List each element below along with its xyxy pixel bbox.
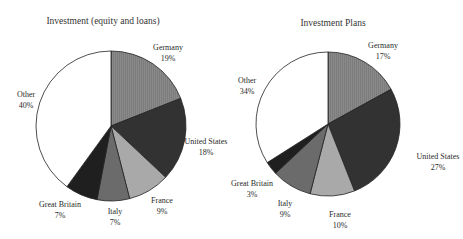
label-pct: 9% [151,206,173,217]
pie-graphic [0,0,231,239]
label-pct: 7% [39,210,81,221]
label-great-britain: Great Britain 7% [39,199,81,221]
label-name: France [151,195,173,206]
label-name: Germany [368,40,398,51]
label-pct: 18% [185,147,228,158]
label-name: Italy [278,198,293,209]
label-pct: 10% [329,220,351,231]
label-name: France [329,209,351,220]
label-name: Other [238,75,256,86]
label-pct: 27% [417,162,460,173]
label-germany: Germany 17% [368,40,398,62]
label-name: Other [17,89,35,100]
label-italy: Italy 9% [278,198,293,220]
pie-graphic [231,0,463,239]
label-other: Other 40% [17,89,35,111]
label-pct: 40% [17,100,35,111]
label-united-states: United States 18% [185,136,228,158]
label-germany: Germany 19% [153,42,183,64]
label-pct: 9% [278,209,293,220]
label-name: Italy [108,206,123,217]
pie-chart-investment: Investment (equity and loans) Germany 19… [0,0,231,239]
label-italy: Italy 7% [108,206,123,228]
pie-chart-investment-plans: Investment Plans Germany 17% United Stat… [231,0,463,239]
label-pct: 3% [231,189,273,200]
label-france: France 9% [151,195,173,217]
label-name: United States [417,151,460,162]
label-name: United States [185,136,228,147]
label-name: Great Britain [231,178,273,189]
label-other: Other 34% [238,75,256,97]
label-pct: 34% [238,86,256,97]
label-united-states: United States 27% [417,151,460,173]
label-name: Germany [153,42,183,53]
label-pct: 19% [153,53,183,64]
label-name: Great Britain [39,199,81,210]
label-pct: 17% [368,51,398,62]
label-pct: 7% [108,217,123,228]
label-france: France 10% [329,209,351,231]
label-great-britain: Great Britain 3% [231,178,273,200]
